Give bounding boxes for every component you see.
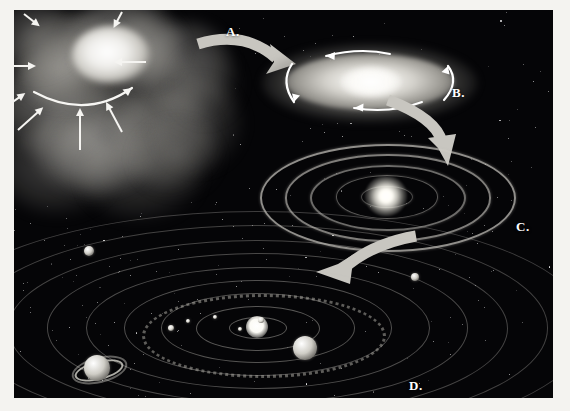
star: [517, 109, 518, 110]
star: [508, 138, 509, 139]
stage-label-d: D.: [409, 378, 423, 394]
star: [540, 71, 541, 72]
planet-saturn: [84, 355, 110, 381]
star: [67, 228, 68, 229]
figure-panel: A. B. C. D.: [14, 10, 553, 398]
star: [548, 91, 549, 92]
planet-inner-planet-4: [258, 317, 264, 323]
star: [263, 18, 264, 19]
star: [533, 81, 534, 82]
protostar: [365, 176, 407, 216]
planet-bodies: [14, 232, 553, 398]
star: [249, 188, 250, 189]
star: [535, 127, 536, 128]
star: [523, 64, 524, 65]
stage-label-a: A.: [226, 24, 240, 40]
star: [504, 25, 505, 26]
star: [506, 12, 507, 13]
planet-inner-planet-1: [168, 325, 174, 331]
planet-jupiter: [293, 336, 317, 360]
planet-outer-planet-left: [84, 246, 94, 256]
star: [14, 230, 15, 231]
planet-inner-planet-3: [238, 327, 242, 331]
star: [509, 120, 510, 121]
star: [384, 23, 385, 24]
planet-inner-planet-5: [213, 315, 217, 319]
planet-inner-planet-2: [186, 319, 190, 323]
stage-label-c: C.: [516, 219, 530, 235]
star: [488, 66, 489, 67]
stage-label-b: B.: [452, 85, 465, 101]
star: [66, 218, 67, 219]
planet-outer-planet-right: [411, 273, 419, 281]
star: [499, 120, 501, 122]
star: [30, 223, 31, 224]
star: [342, 136, 343, 137]
star: [531, 167, 532, 168]
star: [500, 20, 502, 22]
page-background: A. B. C. D.: [0, 0, 570, 411]
stage-d-solar-system: [14, 232, 553, 398]
